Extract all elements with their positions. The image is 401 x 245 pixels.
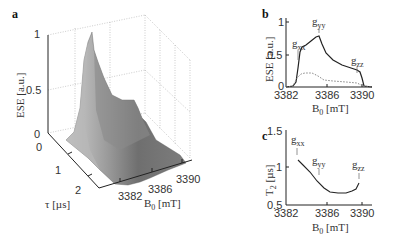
panel-a: a 1 [12, 7, 200, 212]
x-tick-3390: 3390 [176, 173, 200, 185]
b-y-tick-1: 1 [278, 16, 284, 28]
x-tick-3386: 3386 [148, 183, 172, 195]
annotation-gzz: gzz [352, 158, 365, 173]
b-x-tick-3386: 3386 [315, 89, 339, 101]
z-tick-0.5: 0.5 [26, 84, 41, 96]
annotation-ticks-c [297, 148, 359, 179]
figure: a 1 [0, 0, 401, 245]
b-x-tick-3390: 3390 [350, 89, 374, 101]
x-axis-label: B0 [mT] [144, 197, 181, 212]
c-x-tick-3386: 3386 [315, 207, 339, 219]
x-tick-3382: 3382 [118, 190, 142, 202]
t2-line [298, 160, 359, 193]
y-tick-0: 0 [36, 141, 42, 153]
annotation-gyy: gyy [312, 154, 326, 169]
z-axis-label: ESE [a.u.] [14, 72, 26, 118]
y-axis-label: τ [µs] [45, 198, 70, 210]
b-y-axis-label: ESE [a.u.] [263, 36, 275, 82]
panel-b-letter: b [262, 7, 269, 21]
ese-dotted-line [286, 73, 372, 87]
z-tick-1: 1 [34, 28, 40, 40]
annotation-gyy: gyy [312, 15, 326, 30]
panel-a-letter: a [12, 7, 18, 21]
panel-c: c gxx gyy gzz 1.5 1 0.5 3382 3386 3390 T… [262, 125, 374, 236]
y-tick-1: 1 [55, 164, 61, 176]
z-tick-0: 0 [34, 128, 40, 140]
annotation-gxx: gxx [291, 133, 305, 148]
annotation-gxx: gxx [292, 37, 306, 52]
c-y-tick-1.5: 1.5 [267, 125, 282, 137]
panel-b: b gxx gyy gzz 1 0.5 0 3382 3386 3390 ESE… [262, 7, 374, 117]
c-x-tick-3390: 3390 [350, 207, 374, 219]
c-y-tick-1: 1 [276, 161, 282, 173]
annotation-gzz: gzz [351, 54, 364, 69]
annotation-ticks-b [298, 28, 357, 73]
y-tick-2: 2 [75, 184, 81, 196]
c-x-tick-3382: 3382 [274, 207, 298, 219]
b-x-axis-label: B0 [mT] [312, 102, 349, 117]
b-x-tick-3382: 3382 [274, 89, 298, 101]
c-x-axis-label: B0 [mT] [312, 221, 349, 236]
